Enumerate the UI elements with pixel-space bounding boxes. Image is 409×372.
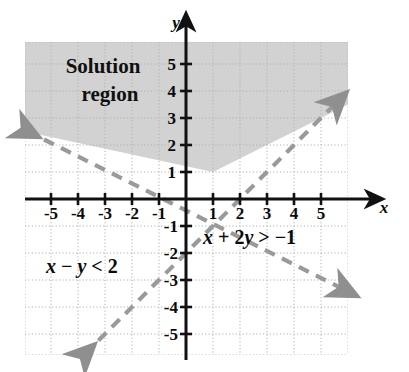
x-tick-label-5: 5 [317, 204, 326, 223]
x-tick-label-neg2: -2 [125, 204, 139, 223]
x-tick-label-neg3: -3 [98, 204, 112, 223]
x-tick-label-2: 2 [236, 204, 245, 223]
y-tick-label-4: 4 [168, 82, 177, 101]
y-tick-label-5: 5 [168, 55, 177, 74]
x-tick-label-1: 1 [209, 204, 218, 223]
y-tick-label-neg3: -3 [164, 271, 178, 290]
y-tick-label-1: 1 [168, 163, 177, 182]
y-tick-label-neg5: -5 [164, 325, 178, 344]
y-tick-label-2: 2 [168, 136, 177, 155]
solution-region-label-line2: region [82, 82, 139, 106]
x-tick-label-neg5: -5 [44, 204, 58, 223]
x-axis-label: x [379, 198, 389, 217]
y-axis-label: y [170, 13, 180, 32]
y-tick-label-neg4: -4 [164, 298, 179, 317]
y-tick-label-neg2: -2 [164, 244, 178, 263]
y-tick-label-3: 3 [168, 109, 177, 128]
inequality-graph-figure: -5 -4 -3 -2 -1 1 2 3 4 5 5 4 3 2 1 -1 -2… [0, 0, 409, 372]
solution-region-label-line1: Solution [66, 54, 141, 78]
x-tick-label-neg4: -4 [71, 204, 86, 223]
inequality-label-x-plus-2y: x + 2y > −1 [202, 226, 296, 249]
coordinate-plane: -5 -4 -3 -2 -1 1 2 3 4 5 5 4 3 2 1 -1 -2… [0, 0, 409, 372]
x-tick-label-4: 4 [290, 204, 299, 223]
x-tick-label-3: 3 [263, 204, 272, 223]
y-tick-label-neg1: -1 [164, 217, 178, 236]
inequality-label-x-minus-y: x − y < 2 [45, 255, 118, 278]
